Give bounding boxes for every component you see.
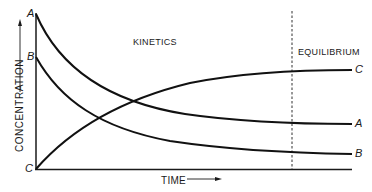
chart-canvas [0, 0, 372, 192]
end-label-b: B [355, 147, 362, 159]
y-axis-label: CONCENTRATION [14, 56, 25, 156]
x-axis-label: TIME [161, 175, 186, 186]
x-arrowhead-icon [215, 177, 222, 181]
curve-c [36, 70, 352, 169]
region-label-kinetics: KINETICS [133, 37, 177, 47]
end-label-c: C [355, 63, 363, 75]
curve-a [36, 14, 352, 124]
start-label-b: B [27, 50, 34, 62]
region-label-equilibrium: EQUILIBRIUM [298, 47, 360, 57]
start-label-a: A [27, 7, 34, 19]
end-label-a: A [355, 117, 362, 129]
y-arrowhead-icon [18, 19, 22, 26]
start-label-c: C [25, 162, 33, 174]
